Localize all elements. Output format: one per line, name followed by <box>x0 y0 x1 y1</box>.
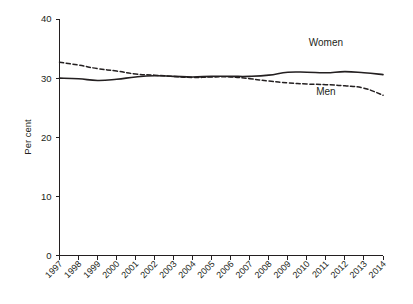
x-tick-label: 2005 <box>195 259 216 280</box>
x-tick-label: 2008 <box>253 259 274 280</box>
y-axis-title: Per cent <box>22 119 33 155</box>
y-tick-label: 0 <box>46 250 51 261</box>
x-tick-label: 2012 <box>329 259 350 280</box>
x-tick-label: 2010 <box>291 259 312 280</box>
x-tick-label: 2009 <box>272 259 293 280</box>
x-tick-label: 2014 <box>367 259 388 280</box>
x-tick-label: 2011 <box>310 259 331 280</box>
y-tick-label: 30 <box>41 73 52 84</box>
y-tick-label: 20 <box>41 132 52 143</box>
x-tick-label: 2003 <box>157 259 178 280</box>
x-tick-label: 1998 <box>62 259 83 280</box>
x-tick-label: 2007 <box>233 259 254 280</box>
x-tick-label: 2000 <box>100 259 121 280</box>
x-tick-label: 2004 <box>176 259 197 280</box>
x-tick-label: 2001 <box>119 259 140 280</box>
x-tick-label: 2006 <box>214 259 235 280</box>
x-axis-label-group: 1997199819992000200120022003200420052006… <box>43 259 388 280</box>
y-tick-label: 10 <box>41 191 52 202</box>
y-tick-label: 40 <box>41 13 52 24</box>
y-axis-tick-group: 010203040 <box>41 13 60 261</box>
x-tick-label: 2002 <box>138 259 159 280</box>
x-axis-tick-group <box>60 256 384 260</box>
x-tick-label: 1997 <box>43 259 64 280</box>
chart-canvas: 010203040 Per cent 199719981999200020012… <box>0 0 413 304</box>
series-label-men: Men <box>316 86 335 97</box>
x-tick-label: 2013 <box>348 259 369 280</box>
x-tick-label: 1999 <box>81 259 102 280</box>
line-chart-figure: 010203040 Per cent 199719981999200020012… <box>0 0 413 304</box>
series-label-women: Women <box>309 37 343 48</box>
series-line-women <box>60 72 384 81</box>
